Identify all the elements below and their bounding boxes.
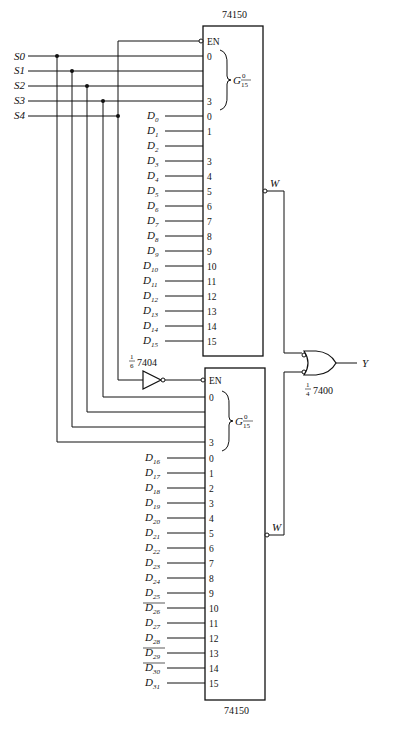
- svg-text:11: 11: [207, 277, 216, 287]
- svg-text:D1: D1: [146, 124, 158, 139]
- lower-chip-title: 74150: [224, 705, 249, 716]
- data-input-row: D33: [146, 154, 212, 169]
- svg-text:D14: D14: [142, 319, 158, 334]
- svg-text:2: 2: [209, 484, 214, 494]
- svg-text:D22: D22: [144, 541, 160, 556]
- svg-text:13: 13: [209, 649, 219, 659]
- s4-label: S4: [14, 109, 26, 121]
- svg-text:7400: 7400: [313, 385, 333, 396]
- svg-text:0: 0: [209, 393, 214, 403]
- svg-text:15: 15: [243, 422, 251, 430]
- svg-text:D21: D21: [144, 526, 160, 541]
- upper-chip-title: 74150: [222, 9, 247, 20]
- svg-text:D6: D6: [146, 199, 159, 214]
- svg-text:EN: EN: [209, 376, 222, 386]
- nand-gate-7400: 1 4 7400: [302, 351, 357, 398]
- svg-text:W: W: [272, 521, 282, 533]
- svg-text:4: 4: [207, 172, 212, 182]
- select-labels: S0 S1 S2 S3 S4: [14, 50, 26, 121]
- data-input-row: D11: [146, 124, 212, 139]
- inverter-7404: 1 6 7404: [129, 353, 205, 389]
- data-input-row: D88: [146, 229, 212, 244]
- svg-text:14: 14: [207, 322, 217, 332]
- svg-text:7404: 7404: [137, 357, 157, 368]
- svg-text:4: 4: [209, 514, 214, 524]
- svg-text:D19: D19: [144, 496, 160, 511]
- svg-text:1: 1: [306, 381, 310, 389]
- data-input-row: D00: [146, 109, 212, 124]
- data-input-row: D2: [146, 139, 203, 154]
- svg-text:3: 3: [209, 438, 214, 448]
- data-input-row: D248: [144, 571, 214, 586]
- svg-text:EN: EN: [207, 37, 220, 47]
- svg-text:4: 4: [306, 390, 310, 398]
- svg-text:D23: D23: [144, 556, 160, 571]
- svg-text:D11: D11: [142, 274, 157, 289]
- svg-text:D7: D7: [146, 214, 159, 229]
- s2-label: S2: [14, 79, 26, 91]
- svg-text:G: G: [235, 415, 243, 427]
- svg-text:D10: D10: [142, 259, 158, 274]
- svg-text:G: G: [233, 74, 241, 86]
- svg-text:6: 6: [130, 362, 134, 370]
- svg-text:12: 12: [209, 634, 219, 644]
- svg-text:W: W: [270, 177, 280, 189]
- svg-text:0: 0: [207, 52, 212, 62]
- svg-text:0: 0: [244, 413, 248, 421]
- svg-text:D2: D2: [146, 139, 159, 154]
- svg-text:5: 5: [209, 529, 214, 539]
- svg-text:D20: D20: [144, 511, 160, 526]
- svg-text:D28: D28: [144, 631, 160, 646]
- s1-to-lower: [72, 71, 205, 427]
- svg-text:D24: D24: [144, 571, 160, 586]
- svg-text:12: 12: [207, 292, 217, 302]
- svg-text:1: 1: [209, 469, 214, 479]
- svg-text:D31: D31: [144, 676, 160, 691]
- svg-text:1: 1: [130, 353, 134, 361]
- data-input-row: D77: [146, 214, 212, 229]
- svg-text:15: 15: [209, 679, 219, 689]
- svg-text:1: 1: [207, 127, 212, 137]
- svg-text:6: 6: [207, 202, 212, 212]
- svg-text:D15: D15: [142, 334, 158, 349]
- svg-text:D0: D0: [146, 109, 159, 124]
- svg-text:7: 7: [207, 217, 212, 227]
- svg-text:15: 15: [241, 81, 249, 89]
- svg-text:6: 6: [209, 544, 214, 554]
- data-input-row: D193: [144, 496, 214, 511]
- data-input-row: D160: [144, 451, 214, 466]
- data-input-row: D259: [144, 586, 214, 601]
- upper-output-w: W: [263, 177, 302, 353]
- select-bus-upper: [28, 56, 203, 116]
- data-input-row: D171: [144, 466, 214, 481]
- svg-text:10: 10: [209, 604, 219, 614]
- svg-text:3: 3: [207, 97, 212, 107]
- svg-text:D18: D18: [144, 481, 160, 496]
- s0-to-lower: [57, 56, 205, 442]
- s4-to-inverter: [118, 116, 143, 380]
- svg-text:D17: D17: [144, 466, 160, 481]
- svg-text:D13: D13: [142, 304, 158, 319]
- svg-text:9: 9: [209, 589, 214, 599]
- svg-text:0: 0: [209, 454, 214, 464]
- svg-text:13: 13: [207, 307, 217, 317]
- data-input-row: D204: [144, 511, 214, 526]
- svg-text:0: 0: [207, 112, 212, 122]
- lower-output-w: W: [265, 372, 302, 537]
- s3-label: S3: [14, 94, 26, 106]
- data-input-row: D182: [144, 481, 214, 496]
- s0-label: S0: [14, 50, 26, 62]
- s4-to-upper-en: [118, 41, 199, 116]
- s1-label: S1: [14, 64, 25, 76]
- data-input-row: D215: [144, 526, 214, 541]
- svg-text:D25: D25: [144, 586, 160, 601]
- svg-text:11: 11: [209, 619, 218, 629]
- svg-text:10: 10: [207, 262, 217, 272]
- data-input-row: D55: [146, 184, 212, 199]
- svg-text:D16: D16: [144, 451, 160, 466]
- svg-text:0: 0: [242, 72, 246, 80]
- data-input-row: D66: [146, 199, 212, 214]
- svg-text:15: 15: [207, 337, 217, 347]
- svg-text:D12: D12: [142, 289, 158, 304]
- svg-text:D27: D27: [144, 616, 160, 631]
